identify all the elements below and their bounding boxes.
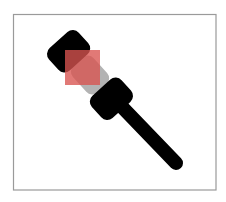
- gavel-illustration: [0, 0, 226, 202]
- image-canvas: [0, 0, 226, 202]
- highlight-square: [65, 50, 100, 85]
